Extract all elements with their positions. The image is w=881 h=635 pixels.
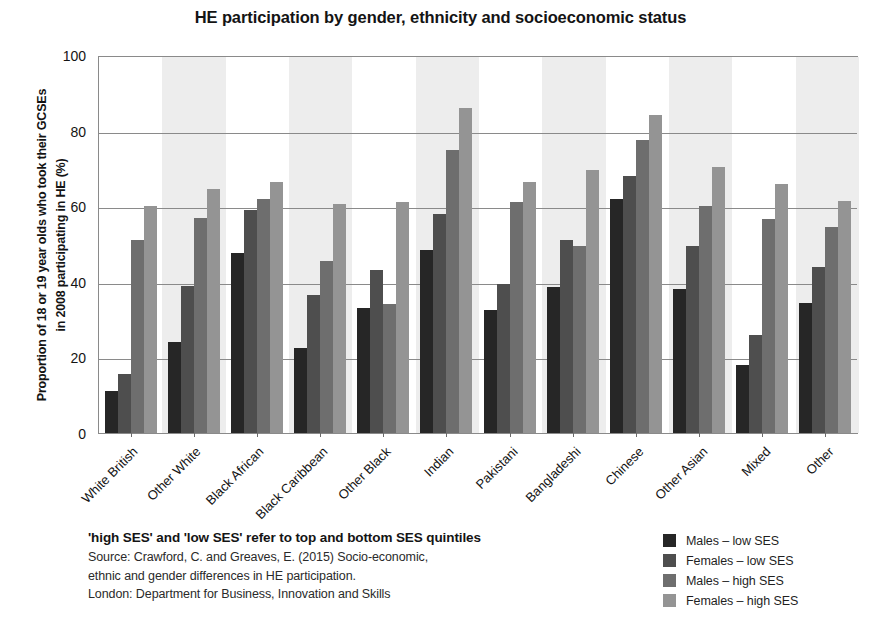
- bar[interactable]: [812, 267, 825, 433]
- y-axis-tick-80: 80: [70, 124, 86, 140]
- bar[interactable]: [383, 304, 396, 433]
- legend-item[interactable]: Females – high SES: [663, 591, 798, 610]
- footnote-line: ethnic and gender differences in HE part…: [88, 567, 568, 586]
- bar[interactable]: [433, 214, 446, 433]
- y-axis-title: Proportion of 18 or 19 year olds who too…: [14, 56, 56, 434]
- bar-group: [794, 57, 857, 433]
- legend: Males – low SESFemales – low SESMales – …: [663, 531, 798, 611]
- legend-label: Females – high SES: [686, 594, 798, 608]
- footnote-line: London: Department for Business, Innovat…: [88, 585, 568, 604]
- x-axis-tick-mark: [699, 433, 700, 437]
- bar[interactable]: [523, 182, 536, 433]
- bar[interactable]: [484, 310, 497, 433]
- bar[interactable]: [244, 210, 257, 433]
- y-axis-tick-labels: 020406080100: [56, 56, 92, 434]
- bar[interactable]: [370, 270, 383, 433]
- bar[interactable]: [294, 348, 307, 433]
- y-axis-tick-20: 20: [70, 350, 86, 366]
- bar-group: [731, 57, 794, 433]
- bar[interactable]: [144, 206, 157, 433]
- x-axis-tick-mark: [762, 433, 763, 437]
- legend-item[interactable]: Males – high SES: [663, 571, 798, 590]
- legend-label: Males – low SES: [686, 534, 779, 548]
- bar[interactable]: [320, 261, 333, 433]
- bar[interactable]: [686, 246, 699, 433]
- bar-group: [99, 57, 162, 433]
- x-axis-tick-mark: [825, 433, 826, 437]
- bar[interactable]: [560, 240, 573, 433]
- legend-label: Females – low SES: [686, 554, 793, 568]
- y-axis-tick-60: 60: [70, 199, 86, 215]
- bar[interactable]: [333, 204, 346, 433]
- x-axis-tick-mark: [636, 433, 637, 437]
- bar-group: [415, 57, 478, 433]
- bar[interactable]: [257, 199, 270, 433]
- bar[interactable]: [573, 246, 586, 433]
- bar[interactable]: [118, 374, 131, 433]
- bar[interactable]: [307, 295, 320, 433]
- bar-group: [162, 57, 225, 433]
- bar[interactable]: [799, 303, 812, 433]
- bar[interactable]: [712, 167, 725, 433]
- bar-group: [604, 57, 667, 433]
- chart-title: HE participation by gender, ethnicity an…: [0, 8, 881, 27]
- legend-item[interactable]: Females – low SES: [663, 551, 798, 570]
- bar[interactable]: [497, 284, 510, 433]
- chart-figure: HE participation by gender, ethnicity an…: [0, 0, 881, 635]
- bar[interactable]: [446, 150, 459, 434]
- x-axis-tick-mark: [320, 433, 321, 437]
- bar[interactable]: [749, 335, 762, 433]
- bar[interactable]: [459, 108, 472, 433]
- bar-groups: [99, 57, 857, 433]
- bar-group: [668, 57, 731, 433]
- bar[interactable]: [673, 289, 686, 433]
- bar[interactable]: [420, 250, 433, 433]
- x-axis-tick-labels: White BritishOther WhiteBlack AfricanBla…: [98, 438, 858, 530]
- bar[interactable]: [396, 202, 409, 433]
- bar[interactable]: [105, 391, 118, 433]
- legend-swatch-icon: [663, 594, 676, 607]
- plot-area: [98, 56, 858, 434]
- x-axis-tick-mark: [510, 433, 511, 437]
- bar-group: [541, 57, 604, 433]
- x-axis-tick-mark: [383, 433, 384, 437]
- bar[interactable]: [207, 189, 220, 433]
- bar[interactable]: [649, 115, 662, 433]
- y-axis-tick-100: 100: [63, 48, 86, 64]
- y-axis-tick-0: 0: [78, 426, 86, 442]
- bar[interactable]: [270, 182, 283, 433]
- bar[interactable]: [168, 342, 181, 433]
- bar[interactable]: [194, 218, 207, 433]
- bar[interactable]: [181, 286, 194, 433]
- bar[interactable]: [231, 253, 244, 433]
- bar[interactable]: [825, 227, 838, 433]
- footnote-heading: 'high SES' and 'low SES' refer to top an…: [88, 530, 568, 545]
- bar[interactable]: [510, 202, 523, 433]
- legend-item[interactable]: Males – low SES: [663, 531, 798, 550]
- bar[interactable]: [636, 140, 649, 433]
- bar[interactable]: [357, 308, 370, 433]
- bar[interactable]: [699, 206, 712, 433]
- bar[interactable]: [838, 201, 851, 433]
- bar[interactable]: [547, 287, 560, 433]
- x-axis-tick-mark: [257, 433, 258, 437]
- x-axis-tick-mark: [446, 433, 447, 437]
- bar[interactable]: [131, 240, 144, 433]
- bar[interactable]: [610, 199, 623, 433]
- bar[interactable]: [762, 219, 775, 433]
- legend-label: Males – high SES: [686, 574, 784, 588]
- legend-swatch-icon: [663, 574, 676, 587]
- bar[interactable]: [775, 184, 788, 433]
- footnote-line: Source: Crawford, C. and Greaves, E. (20…: [88, 548, 568, 567]
- bar[interactable]: [586, 170, 599, 433]
- bar[interactable]: [736, 365, 749, 433]
- footnote: 'high SES' and 'low SES' refer to top an…: [88, 530, 568, 604]
- bar[interactable]: [623, 176, 636, 433]
- bar-group: [478, 57, 541, 433]
- bar-group: [289, 57, 352, 433]
- x-axis-tick-mark: [131, 433, 132, 437]
- x-axis-tick-mark: [194, 433, 195, 437]
- bar-group: [352, 57, 415, 433]
- footnote-source-lines: Source: Crawford, C. and Greaves, E. (20…: [88, 548, 568, 604]
- y-axis-tick-40: 40: [70, 275, 86, 291]
